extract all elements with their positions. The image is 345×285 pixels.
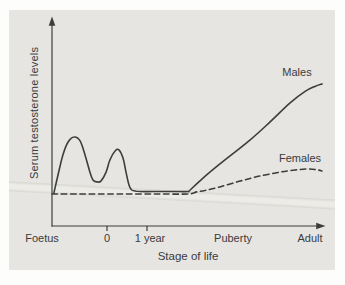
x-axis-label: Stage of life <box>158 250 219 262</box>
y-axis-label: Serum testosterone levels <box>28 47 40 179</box>
females-curve <box>52 169 322 194</box>
x-tick-label-foetus: Foetus <box>25 232 59 244</box>
x-tick-label-adult: Adult <box>297 232 322 244</box>
males-curve <box>54 84 322 193</box>
x-tick-label-puberty: Puberty <box>214 232 252 244</box>
males-series-label: Males <box>282 66 311 78</box>
x-tick-label-1year: 1 year <box>135 232 166 244</box>
axes <box>51 24 318 232</box>
x-axis-arrow-icon <box>316 223 325 230</box>
figure: Serum testosterone levels Stage of life … <box>0 0 345 285</box>
y-axis-arrow-icon <box>49 17 56 26</box>
females-series-label: Females <box>279 152 321 164</box>
x-tick-label-0: 0 <box>104 232 110 244</box>
